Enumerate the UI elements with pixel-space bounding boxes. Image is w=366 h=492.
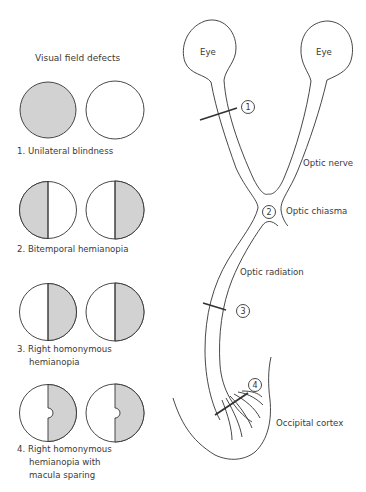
- marker-2-number: 2: [266, 208, 271, 217]
- defect-3-text-line1: Right homonymous: [28, 344, 112, 354]
- defect-4-label: 4. Right homonymous: [17, 443, 112, 456]
- defect-2-text: Bitemporal hemianopia: [28, 244, 129, 254]
- defect-2-number: 2.: [17, 244, 25, 254]
- radiation-fibers: [222, 391, 263, 440]
- lesion-bar-1: [200, 108, 237, 120]
- left-optic-nerve: [205, 82, 258, 420]
- field-2-right: [86, 181, 144, 239]
- right-eye-label: Eye: [316, 46, 332, 59]
- optic-radiation-label: Optic radiation: [240, 266, 304, 279]
- left-eye-label: Eye: [200, 46, 216, 59]
- right-optic-nerve: [268, 81, 311, 194]
- field-2-left: [20, 182, 77, 239]
- optic-nerve-label: Optic nerve: [303, 157, 353, 170]
- defect-2-label: 2. Bitemporal hemianopia: [17, 243, 128, 256]
- defect-1-label: 1. Unilateral blindness: [17, 145, 113, 158]
- field-1-left: [20, 82, 76, 138]
- defect-4-text-line2: hemianopia with: [29, 456, 101, 469]
- defect-3-number: 3.: [17, 344, 25, 354]
- defect-3-label: 3. Right homonymous: [17, 343, 112, 356]
- marker-3-number: 3: [240, 307, 245, 316]
- defect-3-text-line2: hemianopia: [29, 356, 80, 369]
- defect-1-text: Unilateral blindness: [28, 146, 113, 156]
- field-3-left: [20, 284, 77, 341]
- optic-chiasma-label: Optic chiasma: [286, 205, 347, 218]
- field-4-right: [86, 384, 144, 442]
- defect-4-text-line3: macula sparing: [29, 469, 95, 482]
- field-1-right: [86, 81, 144, 139]
- marker-4-number: 4: [252, 381, 257, 390]
- field-3-right: [86, 283, 144, 341]
- defect-4-text-line1: Right homonymous: [28, 444, 112, 454]
- defect-4-number: 4.: [17, 444, 25, 454]
- defect-1-number: 1.: [17, 146, 25, 156]
- occipital-cortex-label: Occipital cortex: [276, 417, 343, 430]
- occipital-cortex: [173, 357, 271, 459]
- panel-title: Visual field defects: [35, 52, 120, 65]
- lesion-bar-3: [203, 303, 226, 310]
- marker-1-number: 1: [245, 103, 250, 112]
- field-4-left: [20, 385, 77, 442]
